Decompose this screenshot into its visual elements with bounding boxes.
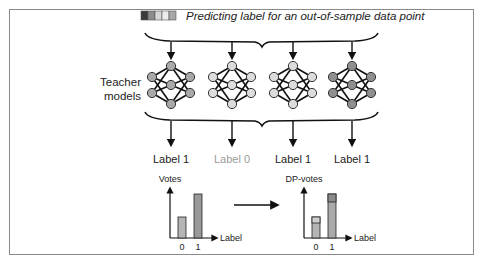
- model-4-label: Label 1: [334, 153, 370, 165]
- teacher-model-2-network-icon: [208, 61, 255, 108]
- model-1-label: Label 1: [153, 153, 189, 165]
- dp-votes-tick-0: 0: [313, 242, 318, 252]
- dp-votes-xlabel: Label: [354, 233, 376, 243]
- teacher-label-line1: Teacher: [100, 76, 141, 88]
- votes-xlabel: Label: [220, 233, 242, 243]
- dp-votes-chart: DP-votes 0 1 Label: [285, 174, 376, 252]
- data-point-icon: [141, 11, 176, 20]
- teacher-model-4-network-icon: [328, 61, 375, 108]
- top-brace: [145, 33, 378, 47]
- teacher-model-1-network-icon: [147, 61, 194, 108]
- teacher-model-3-network-icon: [269, 61, 316, 108]
- pate-diagram: Predicting label for an out-of-sample da…: [0, 0, 482, 268]
- model-3-label: Label 1: [275, 153, 311, 165]
- bottom-brace: [145, 112, 378, 126]
- dp-votes-ylabel: DP-votes: [285, 174, 323, 184]
- votes-tick-0: 0: [179, 242, 184, 252]
- model-2-label: Label 0: [214, 153, 250, 165]
- votes-chart: Votes 0 1 Label: [159, 174, 242, 252]
- dp-votes-tick-1: 1: [329, 242, 334, 252]
- votes-tick-1: 1: [195, 242, 200, 252]
- input-arrows: [171, 42, 352, 56]
- header-title: Predicting label for an out-of-sample da…: [186, 10, 425, 22]
- teacher-label-line2: models: [104, 90, 141, 102]
- votes-ylabel: Votes: [159, 174, 182, 184]
